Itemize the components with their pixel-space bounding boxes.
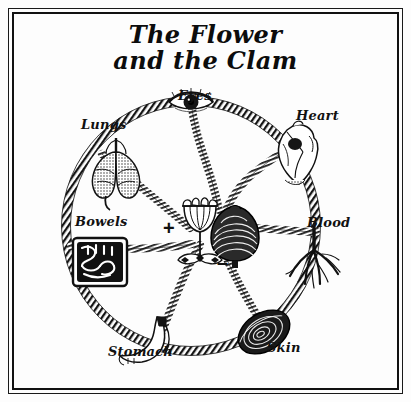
organ-label-blood: Blood	[307, 215, 350, 230]
heart-icon	[278, 121, 317, 184]
plate-page: The Flower and the Clam	[0, 0, 411, 402]
organ-label-stomach: Stomach	[108, 344, 173, 359]
organ-label-lungs: Lungs	[81, 117, 126, 132]
organ-label-heart: Heart	[296, 108, 339, 123]
plus-polarity-glyph: +	[163, 218, 175, 238]
bowels-icon	[73, 238, 127, 286]
organ-label-eyes: Eyes	[178, 88, 212, 103]
organ-label-skin: Skin	[267, 340, 301, 355]
diagram-artwork	[14, 14, 397, 388]
minus-polarity-glyph: –	[217, 252, 228, 272]
organ-label-bowels: Bowels	[75, 214, 128, 229]
lungs-icon	[92, 138, 139, 210]
